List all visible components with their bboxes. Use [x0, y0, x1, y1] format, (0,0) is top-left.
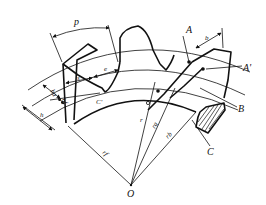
label-p: p	[73, 16, 79, 27]
label-s: s	[77, 74, 80, 82]
radius-r-line	[131, 82, 155, 185]
label-B: B	[238, 103, 244, 114]
gear-diagram: p s e ha hf h b A A' B C C' O rf r ra rb	[0, 0, 266, 205]
base-circle-arc	[74, 100, 196, 124]
label-rf: rf	[101, 149, 111, 159]
label-A-prime: A'	[242, 62, 252, 73]
label-r: r	[140, 116, 143, 124]
label-ha: ha	[48, 88, 59, 98]
label-ra: ra	[150, 120, 160, 130]
label-e: e	[104, 65, 107, 73]
label-C: C	[207, 146, 214, 157]
label-h: h	[40, 111, 44, 119]
tooth-middle	[120, 26, 160, 64]
label-A: A	[185, 24, 193, 35]
pointer-lines	[50, 36, 242, 146]
label-C-prime: C'	[96, 98, 103, 106]
face-width-dimension	[196, 28, 223, 48]
label-b: b	[205, 34, 209, 42]
radii	[68, 82, 196, 185]
tooth-middle-flank	[160, 55, 174, 70]
root-circle	[40, 88, 238, 121]
radius-rf-line	[68, 126, 131, 185]
hatched-section	[196, 103, 225, 133]
label-O: O	[127, 188, 134, 199]
